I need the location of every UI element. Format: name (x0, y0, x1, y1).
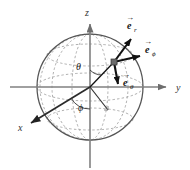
point-p-marker (111, 59, 117, 65)
e-r-label-text: e (127, 20, 132, 31)
e-phi-subscript: ϕ (152, 50, 156, 58)
e-theta-subscript: θ (130, 83, 134, 91)
x-axis-label: x (17, 122, 23, 133)
spherical-coordinates-figure: z y x θ ϕ → e r → e ϕ → e θ (0, 0, 190, 170)
e-theta-label-text: e (123, 77, 128, 88)
figure-background (0, 0, 190, 170)
theta-label: θ (76, 61, 81, 72)
z-axis-label: z (84, 7, 89, 18)
e-r-subscript: r (134, 26, 137, 34)
phi-label: ϕ (78, 102, 83, 113)
y-axis-label: y (175, 82, 181, 93)
figure-canvas: z y x θ ϕ → e r → e ϕ → e θ (0, 0, 190, 170)
e-phi-label-text: e (145, 44, 150, 55)
